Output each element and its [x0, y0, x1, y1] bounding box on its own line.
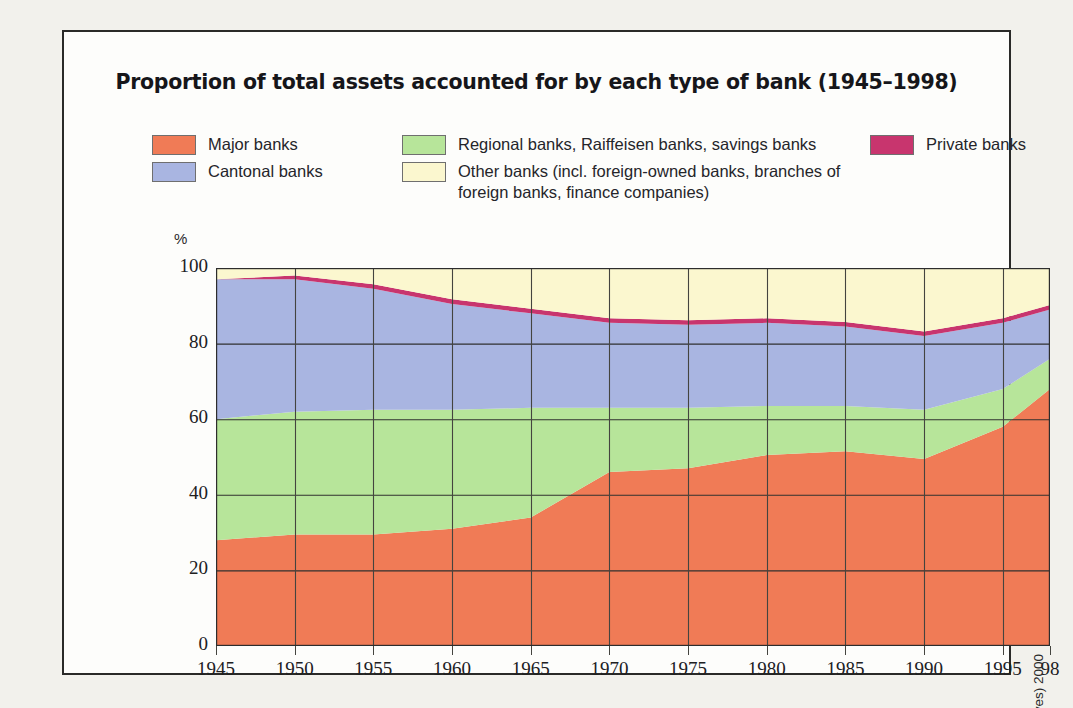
x-tick-label: 1980 — [748, 658, 786, 680]
x-tick-label: 1985 — [826, 658, 864, 680]
credit-line: Credit Suisse Group (Corporate History a… — [1026, 264, 1052, 654]
credit-text: Credit Suisse Group (Corporate History a… — [1031, 654, 1046, 708]
legend-row: Major banks Regional banks, Raiffeisen b… — [152, 134, 1012, 155]
chart-title: Proportion of total assets accounted for… — [64, 70, 1009, 94]
x-tick-mark — [373, 646, 374, 655]
y-tick-label: 40 — [162, 482, 208, 504]
legend-swatch-regional-banks — [402, 135, 446, 155]
x-tick-mark — [609, 646, 610, 655]
legend-label-cantonal-banks: Cantonal banks — [208, 161, 323, 182]
y-tick-label: 60 — [162, 406, 208, 428]
x-tick-mark — [452, 646, 453, 655]
x-tick-label: 1995 — [984, 658, 1022, 680]
x-axis-tick-labels: 1945195019551960196519701975198019851990… — [216, 654, 1050, 682]
legend-label-other-banks: Other banks (incl. foreign-owned banks, … — [458, 161, 870, 203]
x-tick-label: 1945 — [197, 658, 235, 680]
legend-swatch-private-banks — [870, 135, 914, 155]
legend-swatch-major-banks — [152, 135, 196, 155]
y-tick-label: 80 — [162, 331, 208, 353]
stacked-area-chart — [216, 268, 1050, 646]
figure-frame: Proportion of total assets accounted for… — [62, 30, 1011, 675]
legend-swatch-other-banks — [402, 162, 446, 182]
x-tick-label: 1990 — [905, 658, 943, 680]
legend-row: Cantonal banks Other banks (incl. foreig… — [152, 161, 1012, 203]
x-tick-mark — [216, 646, 217, 655]
chart-legend: Major banks Regional banks, Raiffeisen b… — [152, 134, 1012, 209]
x-tick-mark — [295, 646, 296, 655]
legend-label-private-banks: Private banks — [926, 134, 1026, 155]
x-tick-mark — [531, 646, 532, 655]
legend-entry-private-banks: Private banks — [870, 134, 1026, 155]
x-tick-mark — [845, 646, 846, 655]
legend-entry-cantonal-banks: Cantonal banks — [152, 161, 402, 182]
chart-plot-area — [216, 268, 1050, 646]
y-tick-label: 0 — [162, 633, 208, 655]
legend-label-regional-banks: Regional banks, Raiffeisen banks, saving… — [458, 134, 816, 155]
x-tick-mark — [924, 646, 925, 655]
figure-page: Proportion of total assets accounted for… — [0, 0, 1073, 708]
legend-entry-other-banks: Other banks (incl. foreign-owned banks, … — [402, 161, 870, 203]
x-tick-label: 1960 — [433, 658, 471, 680]
y-tick-label: 100 — [162, 255, 208, 277]
y-axis-unit-label: % — [174, 230, 187, 247]
x-tick-label: 1950 — [276, 658, 314, 680]
x-tick-label: 1965 — [512, 658, 550, 680]
x-tick-mark — [688, 646, 689, 655]
legend-entry-regional-banks: Regional banks, Raiffeisen banks, saving… — [402, 134, 870, 155]
x-tick-label: 1955 — [354, 658, 392, 680]
x-tick-label: 1975 — [669, 658, 707, 680]
x-tick-mark — [767, 646, 768, 655]
legend-label-major-banks: Major banks — [208, 134, 298, 155]
x-tick-mark — [1003, 646, 1004, 655]
legend-swatch-cantonal-banks — [152, 162, 196, 182]
legend-entry-major-banks: Major banks — [152, 134, 402, 155]
y-tick-label: 20 — [162, 557, 208, 579]
x-tick-label: 1970 — [590, 658, 628, 680]
y-axis-tick-labels: 020406080100 — [148, 268, 208, 646]
